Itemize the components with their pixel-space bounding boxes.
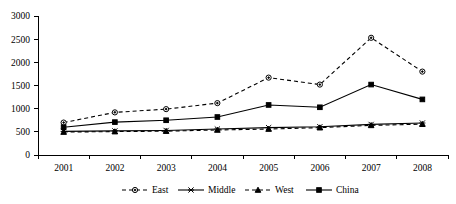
x-tick-label: 2001 — [54, 163, 73, 173]
data-point-west-2004 — [215, 127, 221, 132]
data-point-east-2001-dot — [63, 122, 65, 124]
legend-marker-west — [255, 187, 261, 192]
x-axis-tick-labels: 20012002200320042005200620072008 — [54, 163, 432, 173]
data-point-china-2001 — [61, 125, 66, 130]
data-point-west-2007 — [368, 123, 374, 128]
y-tick-label: 1000 — [11, 104, 30, 114]
y-tick-label: 3000 — [11, 11, 30, 21]
data-point-east-2007-dot — [370, 37, 372, 39]
legend-label-west: West — [275, 185, 294, 195]
x-tick-label: 2007 — [362, 163, 381, 173]
legend-label-china: China — [336, 185, 359, 195]
y-axis-tick-labels: 050010001500200025003000 — [11, 11, 30, 160]
data-point-china-2007 — [369, 82, 374, 87]
data-point-china-2008 — [420, 97, 425, 102]
legend-item-west[interactable]: West — [245, 185, 294, 195]
data-point-east-2003-dot — [165, 108, 167, 110]
x-tick-label: 2002 — [105, 163, 124, 173]
data-point-east-2008-dot — [422, 71, 424, 73]
y-tick-label: 2000 — [11, 58, 30, 68]
series-china — [61, 82, 424, 129]
y-tick-label: 500 — [16, 127, 31, 137]
data-point-china-2004 — [215, 115, 220, 120]
data-point-china-2006 — [318, 105, 323, 110]
x-tick-label: 2008 — [413, 163, 432, 173]
y-tick-label: 1500 — [11, 81, 30, 91]
data-point-west-2005 — [266, 126, 272, 131]
x-tick-label: 2006 — [310, 163, 329, 173]
legend-marker-china — [317, 188, 322, 193]
legend-marker-east-dot — [134, 189, 136, 191]
legend-item-middle[interactable]: Middle — [178, 185, 235, 195]
data-point-east-2004-dot — [217, 102, 219, 104]
data-point-west-2006 — [317, 125, 323, 130]
line-chart: 050010001500200025003000 200120022003200… — [0, 0, 456, 204]
legend-item-china[interactable]: China — [306, 185, 359, 195]
data-point-east-2006-dot — [319, 84, 321, 86]
x-tick-label: 2004 — [208, 163, 227, 173]
data-point-west-2008 — [420, 121, 426, 126]
x-axis-tick-marks — [38, 155, 448, 159]
legend-item-east[interactable]: East — [122, 185, 169, 195]
y-axis-tick-marks — [34, 16, 38, 155]
data-point-china-2002 — [113, 120, 118, 125]
y-tick-label: 0 — [25, 150, 30, 160]
data-point-china-2003 — [164, 118, 169, 123]
x-tick-label: 2005 — [259, 163, 278, 173]
legend-label-east: East — [152, 185, 169, 195]
series-line-east — [64, 38, 423, 123]
series-east — [61, 35, 425, 125]
x-tick-label: 2003 — [157, 163, 176, 173]
chart-legend: EastMiddleWestChina — [122, 185, 359, 195]
y-tick-label: 2500 — [11, 35, 30, 45]
data-point-east-2002-dot — [114, 112, 116, 114]
series-layer — [61, 35, 426, 134]
data-point-china-2005 — [266, 103, 271, 108]
data-point-east-2005-dot — [268, 77, 270, 79]
chart-canvas: 050010001500200025003000 200120022003200… — [0, 0, 456, 204]
legend-label-middle: Middle — [208, 185, 235, 195]
